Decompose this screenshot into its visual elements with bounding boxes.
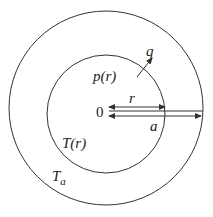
radius-a-label: a xyxy=(150,118,158,134)
density-label: p(r) xyxy=(92,68,116,85)
origin-label: 0 xyxy=(96,104,104,120)
inner-temperature-label: T(r) xyxy=(62,135,86,152)
outer-temperature-subscript: a xyxy=(60,175,66,187)
flux-label: q xyxy=(146,43,154,59)
concentric-circles-diagram: q p(r) 0 r a T(r) Ta xyxy=(0,0,213,217)
radius-r-label: r xyxy=(129,90,135,106)
outer-circle xyxy=(9,11,203,205)
outer-temperature-label: Ta xyxy=(52,168,66,187)
